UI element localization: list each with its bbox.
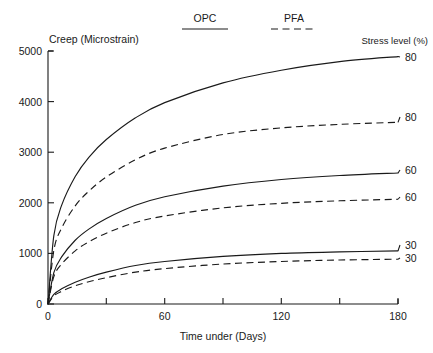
series-leader-pfa-30 — [398, 258, 400, 259]
series-label-pfa-60: 60 — [405, 191, 417, 203]
chart-canvas: OPC PFA Creep (Microstrain) Time under (… — [0, 0, 433, 353]
chart-legend: OPC PFA — [182, 12, 317, 29]
chart-axes: 5000 4000 3000 2000 1000 0 0 60 120 180 — [19, 45, 407, 322]
series-leader-opc-30 — [398, 245, 400, 251]
series-label-opc-80: 80 — [405, 51, 417, 63]
series-label-opc-30: 30 — [405, 239, 417, 251]
series-curve-pfa-80 — [48, 122, 398, 304]
series-label-pfa-80: 80 — [405, 111, 417, 123]
y-ticklabel-2000: 2000 — [19, 197, 43, 209]
x-ticklabel-60: 60 — [159, 310, 171, 322]
x-ticklabel-180: 180 — [389, 310, 407, 322]
y-ticklabel-5000: 5000 — [19, 45, 43, 57]
x-ticklabel-0: 0 — [45, 310, 51, 322]
y-ticklabel-4000: 4000 — [19, 96, 43, 108]
series-leader-opc-60 — [398, 170, 400, 173]
chart-series-group — [48, 57, 400, 304]
y-ticklabel-3000: 3000 — [19, 146, 43, 158]
y-ticklabel-1000: 1000 — [19, 247, 43, 259]
legend-label-pfa: PFA — [284, 12, 304, 24]
x-axis-title: Time under (Days) — [180, 330, 267, 342]
axis-lines — [48, 51, 398, 304]
y-ticklabel-0: 0 — [36, 298, 42, 310]
series-curve-opc-30 — [48, 251, 398, 304]
creep-chart: OPC PFA Creep (Microstrain) Time under (… — [0, 0, 433, 353]
series-label-pfa-30: 30 — [405, 252, 417, 264]
series-leader-pfa-60 — [398, 197, 400, 199]
series-curve-opc-80 — [48, 57, 398, 304]
series-end-labels: 80 80 60 60 30 30 — [405, 51, 417, 264]
series-leader-pfa-80 — [398, 117, 400, 122]
y-axis-title: Creep (Microstrain) — [49, 33, 139, 45]
series-curve-pfa-30 — [48, 259, 398, 304]
series-label-opc-60: 60 — [405, 164, 417, 176]
series-curve-opc-60 — [48, 173, 398, 304]
x-ticklabel-120: 120 — [273, 310, 291, 322]
legend-label-opc: OPC — [194, 12, 217, 24]
right-axis-title: Stress level (%) — [361, 35, 428, 46]
